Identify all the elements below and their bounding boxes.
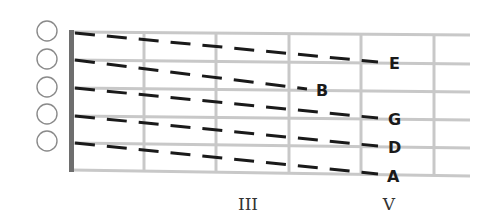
note-label-d: D (388, 138, 401, 157)
string-line (72, 88, 470, 92)
tuning-line-d (75, 116, 378, 146)
string-line (72, 116, 470, 120)
tuning-line-b (75, 60, 307, 89)
fret-marker-v: V (382, 194, 396, 214)
open-string-circle (37, 49, 57, 69)
open-string-circle (37, 77, 57, 97)
note-label-g: G (388, 110, 401, 129)
string-line (72, 32, 470, 35)
note-label-e: E (389, 54, 400, 73)
nut (69, 30, 74, 172)
tuning-lines (75, 33, 378, 174)
string-line (72, 170, 470, 176)
fret-marker-iii: III (238, 194, 258, 214)
open-string-circle (37, 21, 57, 41)
string-line (72, 143, 470, 148)
tuning-line-g (75, 88, 378, 118)
fret-markers: III V (238, 194, 396, 214)
open-string-circle (37, 131, 57, 151)
open-string-circles (37, 21, 57, 151)
strings (72, 32, 470, 176)
note-label-b: B (316, 81, 328, 100)
string-line (72, 60, 470, 64)
fretboard-diagram: E B G D A III V (0, 0, 495, 222)
open-string-circle (37, 104, 57, 124)
note-label-a: A (387, 167, 400, 186)
tuning-line-e (75, 33, 378, 62)
